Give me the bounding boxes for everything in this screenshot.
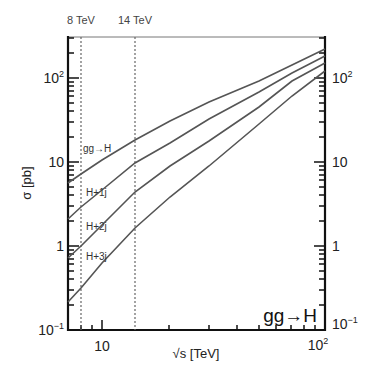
y-tick-label-left-10: 10 xyxy=(48,154,64,170)
y-tick-label-right-10: 10 xyxy=(332,154,348,170)
y-tick-label-right-1: 1 xyxy=(332,238,340,254)
chart-canvas: 8 TeV 14 TeV gg→H H+1j H+2j H+3j 10−1 1 … xyxy=(0,0,372,378)
y-axis-title: σ [pb] xyxy=(19,166,34,199)
x-tick-label-10: 10 xyxy=(94,338,110,354)
y-tick-label-right-100: 102 xyxy=(332,69,353,86)
curve-ggH xyxy=(68,49,325,183)
curve-label-ggH: gg→H xyxy=(83,143,111,154)
y-tick-label-right-0.1: 10−1 xyxy=(332,315,358,332)
curve-label-H2j: H+2j xyxy=(86,221,107,232)
label-14tev: 14 TeV xyxy=(118,14,153,26)
y-tick-label-left-1: 1 xyxy=(56,238,64,254)
label-8tev: 8 TeV xyxy=(67,14,96,26)
x-tick-label-100: 102 xyxy=(308,336,329,353)
curve-label-H3j: H+3j xyxy=(86,251,107,262)
process-label: gg→H xyxy=(263,305,317,326)
y-ticks-left xyxy=(68,38,79,305)
y-tick-label-left-100: 102 xyxy=(43,69,64,86)
y-tick-label-left-0.1: 10−1 xyxy=(38,321,64,338)
x-axis-title: √s [TeV] xyxy=(173,346,220,361)
curve-label-H1j: H+1j xyxy=(86,187,107,198)
